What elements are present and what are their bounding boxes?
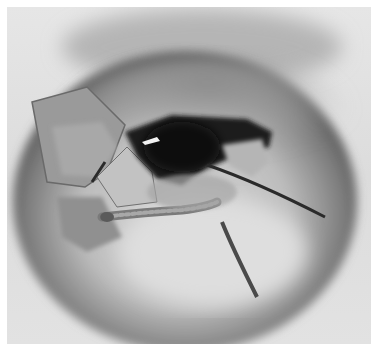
seed-illustration — [7, 7, 371, 344]
photograph — [7, 7, 371, 344]
